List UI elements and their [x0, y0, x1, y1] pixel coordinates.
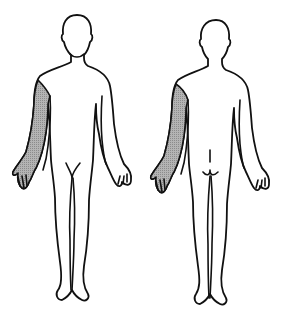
- back-view: [151, 20, 269, 305]
- back-right-arm-shaded: [151, 84, 188, 193]
- front-right-arm-shaded: [13, 80, 50, 189]
- front-view: [13, 15, 131, 301]
- body-diagram: [0, 0, 290, 320]
